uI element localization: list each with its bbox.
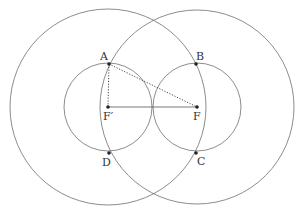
- point-d: [107, 151, 111, 155]
- geometry-diagram: A B C D F F′: [0, 0, 300, 212]
- dotted-segment-a-fprime: [108, 64, 109, 107]
- label-d: D: [102, 156, 111, 169]
- point-f: [195, 105, 199, 109]
- label-a: A: [99, 50, 109, 63]
- label-c: C: [197, 155, 205, 168]
- label-f: F: [193, 110, 201, 123]
- label-fprime: F′: [103, 110, 114, 123]
- dotted-segment-a-f: [109, 64, 197, 107]
- label-b: B: [196, 50, 204, 63]
- point-fprime: [106, 105, 110, 109]
